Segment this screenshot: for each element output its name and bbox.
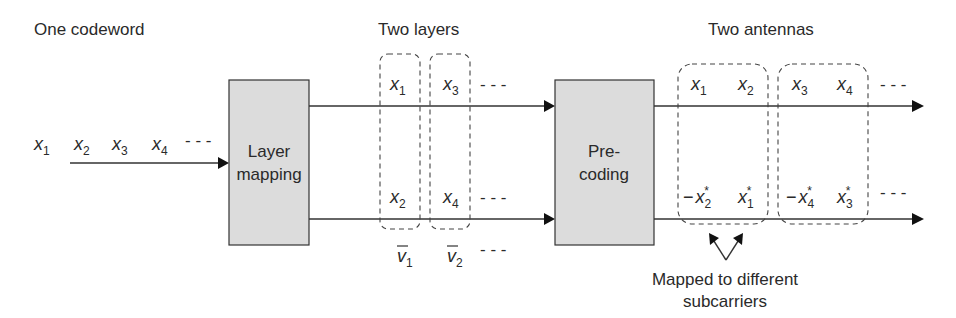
antennas-heading: Two antennas bbox=[708, 20, 814, 39]
svg-text:x3: x3 bbox=[111, 134, 128, 158]
arrowhead-icon bbox=[912, 100, 924, 112]
layer-top-ellipsis: - - - bbox=[480, 75, 506, 94]
svg-text:x1: x1 bbox=[33, 134, 50, 158]
svg-text:−x2*: −x2* bbox=[683, 184, 712, 211]
arrowhead-icon bbox=[544, 100, 555, 112]
svg-text:x4: x4 bbox=[151, 134, 168, 158]
vector-v1: v1 bbox=[397, 246, 413, 270]
svg-text:x2: x2 bbox=[737, 74, 754, 98]
svg-text:x4: x4 bbox=[442, 187, 459, 211]
svg-text:x1*: x1* bbox=[737, 184, 754, 211]
svg-text:−x4*: −x4* bbox=[786, 184, 815, 211]
precoding-block bbox=[555, 80, 654, 245]
layer-bottom-ellipsis: - - - bbox=[480, 188, 506, 207]
arrowhead-icon bbox=[912, 213, 924, 225]
vector-ellipsis: - - - bbox=[480, 240, 506, 259]
arrowhead-icon bbox=[544, 213, 555, 225]
layers-heading: Two layers bbox=[378, 20, 459, 39]
svg-text:x2: x2 bbox=[389, 187, 406, 211]
svg-text:x3: x3 bbox=[442, 74, 459, 98]
arrowhead-icon bbox=[218, 157, 229, 169]
input-ellipsis: - - - bbox=[185, 131, 211, 150]
codeword-heading: One codeword bbox=[34, 20, 145, 39]
antenna-bottom-ellipsis: - - - bbox=[880, 183, 906, 202]
svg-text:x4: x4 bbox=[836, 74, 853, 98]
input-symbol: x4 bbox=[151, 134, 168, 158]
layer-mapping-label-2: mapping bbox=[236, 165, 301, 184]
vector-v2: v2 bbox=[447, 246, 463, 270]
input-symbol: x2 bbox=[73, 134, 90, 158]
svg-text:x3: x3 bbox=[791, 74, 808, 98]
antenna-top-ellipsis: - - - bbox=[880, 75, 906, 94]
precoding-label-2: coding bbox=[579, 165, 629, 184]
svg-text:x1: x1 bbox=[690, 74, 707, 98]
svg-text:x3*: x3* bbox=[836, 184, 853, 211]
precoding-label-1: Pre- bbox=[588, 142, 620, 161]
layer-mapping-precoding-diagram: One codeword Two layers Two antennas x1 … bbox=[0, 0, 956, 318]
input-symbol: x3 bbox=[111, 134, 128, 158]
note-line-2: subcarriers bbox=[683, 292, 767, 311]
layer-mapping-block bbox=[229, 80, 309, 245]
svg-text:x1: x1 bbox=[389, 74, 406, 98]
input-symbol: x1 bbox=[33, 134, 50, 158]
note-line-1: Mapped to different bbox=[652, 270, 798, 289]
svg-text:x2: x2 bbox=[73, 134, 90, 158]
layer-mapping-label-1: Layer bbox=[248, 142, 291, 161]
subcarrier-pointer-icon bbox=[709, 233, 743, 260]
